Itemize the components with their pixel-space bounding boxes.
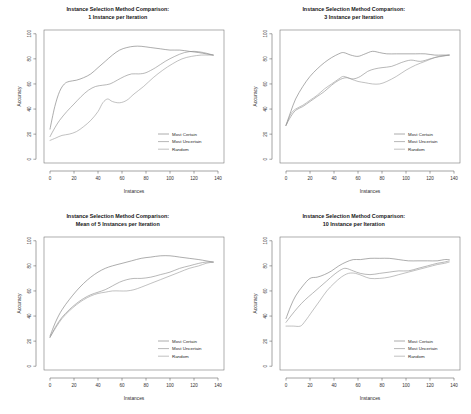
- legend-label: Most Uncertain: [408, 346, 438, 351]
- legend-label: Most Certain: [172, 339, 197, 344]
- series-line-most-uncertain: [50, 262, 213, 337]
- legend-label: Random: [408, 147, 425, 152]
- x-tick-label: 80: [379, 176, 385, 181]
- y-tick-label: 60: [263, 81, 268, 87]
- chart-title-line1: Instance Selection Method Comparison:: [302, 213, 405, 219]
- series-line-most-certain: [50, 256, 213, 336]
- chart-title-line2: 10 Instance per Iteration: [322, 221, 384, 227]
- chart-panel-3: Instance Selection Method Comparison:Mea…: [0, 207, 236, 414]
- x-tick-label: 100: [166, 383, 174, 388]
- y-tick-label: 0: [27, 365, 32, 368]
- x-tick-label: 100: [402, 383, 410, 388]
- y-tick-label: 40: [263, 313, 268, 319]
- y-tick-label: 20: [263, 131, 268, 137]
- y-tick-label: 40: [27, 106, 32, 112]
- x-tick-label: 120: [426, 383, 434, 388]
- legend-label: Random: [408, 354, 425, 359]
- y-tick-label: 0: [27, 158, 32, 161]
- chart-panel-1: Instance Selection Method Comparison:1 I…: [0, 0, 236, 207]
- x-tick-label: 0: [49, 383, 52, 388]
- x-tick-label: 140: [450, 176, 458, 181]
- y-tick-label: 20: [27, 131, 32, 137]
- legend-label: Most Certain: [408, 339, 433, 344]
- series-line-most-certain: [50, 46, 213, 129]
- legend-label: Most Certain: [408, 132, 433, 137]
- y-tick-label: 60: [27, 81, 32, 87]
- y-tick-label: 80: [263, 263, 268, 269]
- x-tick-label: 80: [379, 383, 385, 388]
- x-tick-label: 60: [119, 383, 125, 388]
- series-line-most-uncertain: [286, 55, 449, 125]
- series-line-random: [50, 55, 213, 140]
- chart-title-line2: Mean of 5 Instances per Iteration: [76, 221, 160, 227]
- y-tick-label: 100: [27, 29, 32, 37]
- series-line-random: [286, 55, 449, 125]
- series-line-random: [50, 262, 213, 337]
- y-tick-label: 80: [27, 263, 32, 269]
- x-tick-label: 140: [214, 176, 222, 181]
- x-tick-label: 120: [426, 176, 434, 181]
- figure-panel-grid: Instance Selection Method Comparison:1 I…: [0, 0, 471, 414]
- x-tick-label: 100: [402, 176, 410, 181]
- x-tick-label: 20: [307, 176, 313, 181]
- y-tick-label: 20: [263, 338, 268, 344]
- legend-label: Random: [172, 147, 189, 152]
- y-tick-label: 100: [263, 236, 268, 244]
- series-line-random: [286, 262, 449, 326]
- x-axis-title: Instances: [359, 396, 380, 401]
- x-axis-title: Instances: [359, 189, 380, 194]
- y-axis-title: Accuracy: [253, 86, 258, 106]
- series-line-most-certain: [286, 51, 449, 125]
- chart-title-line2: 3 Instance per Iteration: [324, 14, 383, 20]
- chart-panel-4: Instance Selection Method Comparison:10 …: [236, 207, 471, 414]
- legend-label: Most Uncertain: [172, 346, 202, 351]
- y-tick-label: 0: [263, 158, 268, 161]
- x-tick-label: 80: [143, 176, 149, 181]
- y-tick-label: 40: [263, 106, 268, 112]
- legend-label: Most Certain: [172, 132, 197, 137]
- x-tick-label: 120: [190, 383, 198, 388]
- y-tick-label: 80: [27, 56, 32, 62]
- series-line-most-uncertain: [50, 51, 213, 136]
- x-tick-label: 40: [95, 176, 101, 181]
- series-line-most-certain: [286, 258, 449, 318]
- x-tick-label: 40: [95, 383, 101, 388]
- chart-panel-2: Instance Selection Method Comparison:3 I…: [236, 0, 471, 207]
- x-tick-label: 0: [284, 383, 287, 388]
- legend-label: Random: [172, 354, 189, 359]
- y-tick-label: 20: [27, 338, 32, 344]
- x-tick-label: 20: [71, 383, 77, 388]
- chart-title-line1: Instance Selection Method Comparison:: [302, 6, 405, 12]
- y-axis-title: Accuracy: [17, 86, 22, 106]
- x-tick-label: 60: [355, 383, 361, 388]
- y-axis-title: Accuracy: [253, 293, 258, 313]
- x-tick-label: 60: [119, 176, 125, 181]
- y-tick-label: 60: [263, 288, 268, 294]
- y-tick-label: 100: [263, 29, 268, 37]
- x-tick-label: 140: [214, 383, 222, 388]
- x-axis-title: Instances: [124, 189, 145, 194]
- legend-label: Most Uncertain: [172, 139, 202, 144]
- x-tick-label: 60: [355, 176, 361, 181]
- x-tick-label: 0: [284, 176, 287, 181]
- series-line-most-uncertain: [286, 261, 449, 322]
- y-tick-label: 100: [27, 236, 32, 244]
- y-tick-label: 80: [263, 56, 268, 62]
- x-tick-label: 140: [450, 383, 458, 388]
- x-axis-title: Instances: [124, 396, 145, 401]
- x-tick-label: 100: [166, 176, 174, 181]
- legend-label: Most Uncertain: [408, 139, 438, 144]
- chart-title-line1: Instance Selection Method Comparison:: [66, 6, 169, 12]
- x-tick-label: 20: [307, 383, 313, 388]
- y-axis-title: Accuracy: [17, 293, 22, 313]
- y-tick-label: 0: [263, 365, 268, 368]
- chart-title-line1: Instance Selection Method Comparison:: [66, 213, 169, 219]
- y-tick-label: 60: [27, 288, 32, 294]
- x-tick-label: 20: [71, 176, 77, 181]
- x-tick-label: 80: [143, 383, 149, 388]
- x-tick-label: 40: [331, 176, 337, 181]
- y-tick-label: 40: [27, 313, 32, 319]
- x-tick-label: 0: [49, 176, 52, 181]
- chart-title-line2: 1 Instance per Iteration: [88, 14, 147, 20]
- x-tick-label: 40: [331, 383, 337, 388]
